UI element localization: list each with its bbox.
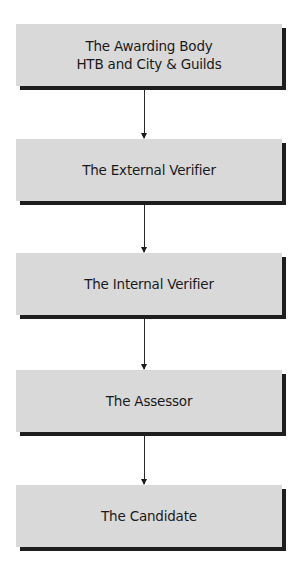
- node-label: The Awarding Body HTB and City & Guilds: [76, 37, 221, 73]
- node-candidate: The Candidate: [16, 485, 282, 547]
- node-internal-verifier: The Internal Verifier: [16, 253, 282, 315]
- arrow-down-icon: [144, 319, 145, 369]
- arrow-down-icon: [144, 205, 145, 252]
- node-assessor: The Assessor: [16, 370, 282, 432]
- node-awarding-body: The Awarding Body HTB and City & Guilds: [16, 24, 282, 86]
- arrow-down-icon: [144, 436, 145, 484]
- node-external-verifier: The External Verifier: [16, 139, 282, 201]
- node-label: The External Verifier: [82, 161, 216, 179]
- node-label: The Assessor: [106, 392, 192, 410]
- node-label: The Candidate: [101, 507, 197, 525]
- arrow-down-icon: [144, 90, 145, 138]
- node-label: The Internal Verifier: [84, 275, 214, 293]
